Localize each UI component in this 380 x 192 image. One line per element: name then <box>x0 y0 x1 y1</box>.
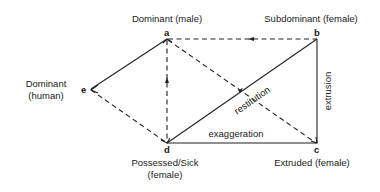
node-e-label-line1: Dominant <box>26 78 67 89</box>
vertex-e-letter: e <box>81 84 86 95</box>
arrowheads <box>91 37 317 143</box>
node-c-label: Extruded (female) <box>274 157 350 168</box>
edge-label-extrusion: extrusion <box>322 72 333 111</box>
node-b-label: Subdominant (female) <box>264 13 357 24</box>
status-transition-diagram: a b c d e Dominant (male) Subdominant (f… <box>0 0 380 192</box>
edge-label-exaggeration: exaggeration <box>209 128 264 139</box>
vertex-d-letter: d <box>164 144 170 155</box>
node-e-label-line2: (human) <box>28 90 63 101</box>
node-d-label-line1: Possessed/Sick <box>131 157 198 168</box>
edge-e-d <box>91 90 167 143</box>
node-a-label: Dominant (male) <box>132 13 202 24</box>
edges <box>91 39 317 143</box>
arrowhead-c-icon <box>311 137 317 143</box>
vertex-b-letter: b <box>314 27 320 38</box>
vertex-a-letter: a <box>164 27 170 38</box>
vertex-c-letter: c <box>314 144 319 155</box>
arrow-mid-a-b-icon <box>248 37 254 41</box>
edge-e-a <box>91 39 167 89</box>
arrow-mid-a-d-icon <box>165 77 169 83</box>
node-d-label-line2: (female) <box>148 169 183 180</box>
